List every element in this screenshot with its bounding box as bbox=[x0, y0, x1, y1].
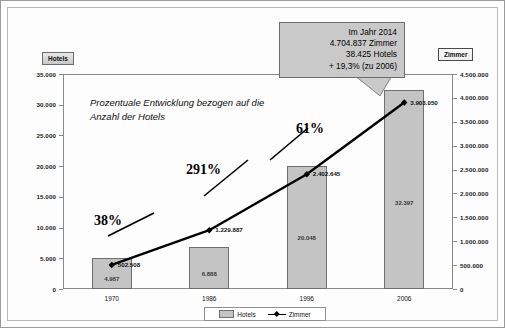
legend-label-zimmer: Zimmer bbox=[289, 311, 311, 318]
callout-line-4: + 19,3% (zu 2006) bbox=[287, 61, 397, 72]
left-axis-tick bbox=[59, 228, 63, 229]
bar-value-label: 4.987 bbox=[93, 276, 131, 282]
zimmer-value-1970: 502.508 bbox=[118, 261, 140, 268]
left-axis-tick-label: 0 bbox=[8, 286, 56, 293]
right-axis-tick bbox=[453, 146, 457, 147]
left-axis-tick bbox=[59, 105, 63, 106]
right-axis-tick bbox=[453, 98, 457, 99]
x-label-2006: 2006 bbox=[374, 295, 434, 302]
right-axis-tick bbox=[453, 122, 457, 123]
left-axis-tick-label: 5.000 bbox=[8, 255, 56, 262]
right-axis-tick bbox=[453, 170, 457, 171]
bar-value-label: 20.048 bbox=[288, 235, 326, 241]
x-label-1986: 1986 bbox=[179, 295, 239, 302]
callout-box: Im Jahr 2014 4.704.837 Zimmer 38.425 Hot… bbox=[279, 22, 405, 78]
left-axis-tick-label: 10.000 bbox=[8, 224, 56, 231]
right-axis-tick-label: 1.500.000 bbox=[460, 214, 488, 221]
right-axis-tick-label: 2.500.000 bbox=[460, 166, 488, 173]
callout-line-1: Im Jahr 2014 bbox=[287, 27, 397, 38]
callout-line-2: 4.704.837 Zimmer bbox=[287, 38, 397, 49]
bar-value-label: 32.397 bbox=[385, 200, 423, 206]
growth-label-2: 61% bbox=[296, 121, 324, 137]
line-marker-icon bbox=[268, 311, 286, 317]
left-axis-tick bbox=[59, 197, 63, 198]
chart-window: Hotels Zimmer 35.00030.00025.00020.00015… bbox=[0, 0, 505, 328]
right-axis-tick bbox=[453, 193, 457, 194]
left-axis-tick bbox=[59, 258, 63, 259]
growth-label-1: 291% bbox=[186, 162, 221, 178]
left-axis-title: Hotels bbox=[42, 52, 74, 65]
right-axis-tick-label: 4.000.000 bbox=[460, 94, 488, 101]
right-axis-tick-label: 2.000.000 bbox=[460, 190, 488, 197]
left-axis-tick bbox=[59, 74, 63, 75]
legend-item-hotels: Hotels bbox=[219, 310, 255, 318]
x-label-1970: 1970 bbox=[82, 295, 142, 302]
growth-label-0: 38% bbox=[94, 213, 122, 229]
right-axis-tick bbox=[453, 289, 457, 290]
chart-canvas: Hotels Zimmer 35.00030.00025.00020.00015… bbox=[7, 7, 498, 321]
bar-2006: 32.397 bbox=[384, 90, 424, 289]
right-axis-tick bbox=[453, 265, 457, 266]
callout-line-3: 38.425 Hotels bbox=[287, 49, 397, 60]
left-axis-tick-label: 35.000 bbox=[8, 71, 56, 78]
right-axis-tick bbox=[453, 74, 457, 75]
left-axis-tick bbox=[59, 166, 63, 167]
bar-swatch-icon bbox=[219, 310, 234, 318]
right-axis-tick-label: 1.000.000 bbox=[460, 238, 488, 245]
left-axis-tick-label: 20.000 bbox=[8, 163, 56, 170]
chart-note: Prozentuale Entwicklung bezogen auf die … bbox=[90, 96, 290, 124]
zimmer-value-2006: 3.903.050 bbox=[410, 99, 438, 106]
left-axis-tick bbox=[59, 289, 63, 290]
bar-1996: 20.048 bbox=[287, 166, 327, 289]
legend-item-zimmer: Zimmer bbox=[268, 311, 311, 318]
right-axis-tick-label: 0 bbox=[460, 286, 464, 293]
left-axis-tick bbox=[59, 135, 63, 136]
left-axis-tick-label: 30.000 bbox=[8, 101, 56, 108]
right-axis-tick bbox=[453, 241, 457, 242]
legend-label-hotels: Hotels bbox=[237, 311, 255, 318]
bar-value-label: 6.888 bbox=[190, 271, 228, 277]
x-label-1996: 1996 bbox=[277, 295, 337, 302]
right-axis-tick-label: 3.500.000 bbox=[460, 118, 488, 125]
zimmer-value-1986: 1.229.887 bbox=[215, 226, 243, 233]
right-axis-tick-label: 500.000 bbox=[460, 262, 483, 269]
zimmer-value-1996: 2.402.645 bbox=[313, 170, 341, 177]
left-axis-tick-label: 15.000 bbox=[8, 193, 56, 200]
right-axis-tick-label: 3.000.000 bbox=[460, 142, 488, 149]
chart-legend: Hotels Zimmer bbox=[204, 307, 326, 321]
right-axis-tick bbox=[453, 217, 457, 218]
left-axis-tick-label: 25.000 bbox=[8, 132, 56, 139]
bar-1986: 6.888 bbox=[189, 247, 229, 289]
right-axis-tick-label: 4.500.000 bbox=[460, 71, 488, 78]
right-axis-title: Zimmer bbox=[438, 48, 473, 61]
